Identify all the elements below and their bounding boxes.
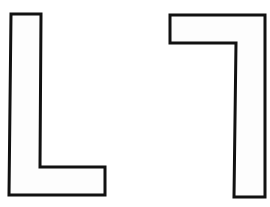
l-shape bbox=[9, 14, 105, 195]
diagram-canvas bbox=[0, 0, 270, 207]
mirrored-l-shape bbox=[170, 15, 265, 197]
